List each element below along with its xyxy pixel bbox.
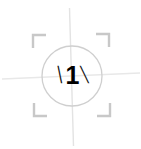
crosshair-lines xyxy=(2,8,140,146)
bracket-bottom-right-icon xyxy=(97,103,110,116)
bracket-top-left-icon xyxy=(33,35,46,48)
bracket-bottom-left-icon xyxy=(34,103,47,116)
bracket-top-right-icon xyxy=(96,34,109,47)
reticle-graphic xyxy=(0,0,141,149)
focus-reticle-widget: \ 1 \ xyxy=(0,0,141,149)
crosshair-vertical-line xyxy=(70,8,74,146)
